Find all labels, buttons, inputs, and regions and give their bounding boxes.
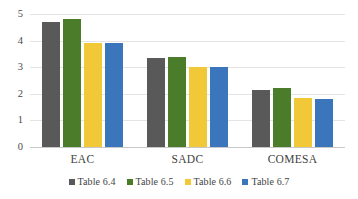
legend-swatch-icon xyxy=(69,179,75,185)
bar[interactable] xyxy=(210,67,228,147)
legend-label: Table 6.4 xyxy=(78,176,116,187)
bar[interactable] xyxy=(294,98,312,147)
legend-item[interactable]: Table 6.7 xyxy=(242,176,289,187)
chart-legend: Table 6.4Table 6.5Table 6.6Table 6.7 xyxy=(0,176,358,187)
x-axis-label-eac: EAC xyxy=(30,153,135,166)
y-axis-tick-label: 1 xyxy=(18,115,23,126)
y-axis-tick-label: 3 xyxy=(18,62,23,73)
legend-swatch-icon xyxy=(185,179,191,185)
legend-swatch-icon xyxy=(127,179,133,185)
legend-label: Table 6.6 xyxy=(194,176,232,187)
plot-area xyxy=(30,14,345,147)
bar[interactable] xyxy=(84,43,102,147)
bar[interactable] xyxy=(273,88,291,147)
bar[interactable] xyxy=(63,19,81,147)
legend-item[interactable]: Table 6.5 xyxy=(127,176,174,187)
legend-item[interactable]: Table 6.6 xyxy=(185,176,232,187)
axis-baseline xyxy=(30,147,345,148)
legend-item[interactable]: Table 6.4 xyxy=(69,176,116,187)
bar[interactable] xyxy=(42,22,60,147)
y-axis-tick-label: 5 xyxy=(18,9,23,20)
y-axis-tick-label: 2 xyxy=(18,89,23,100)
bar[interactable] xyxy=(147,58,165,147)
y-axis-tick-label: 4 xyxy=(18,36,23,47)
bar-group xyxy=(135,14,240,147)
x-axis-label-sadc: SADC xyxy=(135,153,240,166)
y-axis-tick-label: 0 xyxy=(18,142,23,153)
y-axis: 012345 xyxy=(0,0,30,161)
bar-group xyxy=(30,14,135,147)
legend-label: Table 6.7 xyxy=(251,176,289,187)
x-axis-label-comesa: COMESA xyxy=(240,153,345,166)
bar[interactable] xyxy=(105,43,123,147)
legend-swatch-icon xyxy=(242,179,248,185)
legend-label: Table 6.5 xyxy=(136,176,174,187)
bar-chart: 012345 EACSADCCOMESA Table 6.4Table 6.5T… xyxy=(0,0,358,199)
bar-group xyxy=(240,14,345,147)
bar[interactable] xyxy=(315,99,333,147)
bar[interactable] xyxy=(189,67,207,147)
bar[interactable] xyxy=(252,90,270,147)
bar[interactable] xyxy=(168,57,186,147)
